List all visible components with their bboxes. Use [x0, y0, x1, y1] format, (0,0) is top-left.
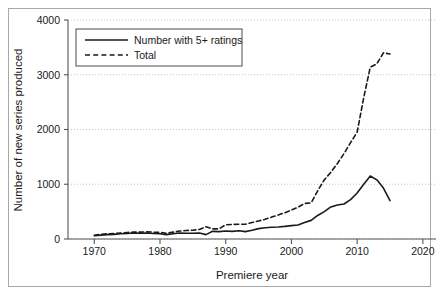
- x-axis-tick-labels: 197019801990200020102020: [83, 245, 435, 257]
- y-axis-tick-labels: 01000200030004000: [37, 14, 61, 245]
- series-line-1: [94, 53, 390, 235]
- data-series: [94, 53, 390, 236]
- x-axis-title: Premiere year: [216, 269, 288, 281]
- legend-label-series-1: Total: [134, 49, 156, 61]
- legend-label-series-0: Number with 5+ ratings: [134, 34, 242, 46]
- y-tick-label-1000: 1000: [37, 178, 61, 190]
- y-tick-label-0: 0: [54, 233, 60, 245]
- y-tick-label-2000: 2000: [37, 123, 61, 135]
- line-chart: 01000200030004000 1970198019902000201020…: [0, 0, 439, 300]
- x-tick-label-1980: 1980: [148, 245, 172, 257]
- x-tick-label-2020: 2020: [411, 245, 435, 257]
- x-tick-label-1970: 1970: [83, 245, 107, 257]
- y-axis-title: Number of new series produced: [12, 49, 24, 212]
- y-tick-label-3000: 3000: [37, 69, 61, 81]
- x-tick-label-2010: 2010: [345, 245, 369, 257]
- figure-container: 01000200030004000 1970198019902000201020…: [0, 0, 439, 300]
- series-line-0: [94, 176, 390, 236]
- x-tick-label-1990: 1990: [214, 245, 238, 257]
- x-tick-label-2000: 2000: [280, 245, 304, 257]
- x-axis-ticks: [94, 239, 423, 244]
- legend: Number with 5+ ratings Total: [76, 29, 242, 66]
- y-axis-ticks: [64, 20, 68, 239]
- y-tick-label-4000: 4000: [37, 14, 61, 26]
